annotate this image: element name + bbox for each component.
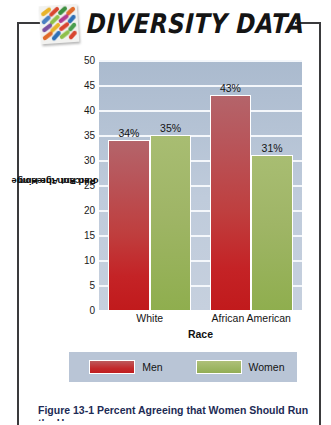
y-axis-tick-label: 50 [73, 55, 95, 66]
frame-border-right [319, 22, 321, 425]
figure-header: DIVERSITY DATA [40, 2, 301, 46]
chart-legend: MenWomen [69, 352, 297, 382]
figure-caption: Figure 13-1 Percent Agreeing that Women … [38, 404, 309, 421]
x-axis-title: Race [99, 328, 302, 340]
y-axis-tick-label: 30 [73, 155, 95, 166]
y-axis-tick-label: 0 [73, 305, 95, 316]
y-axis-tick-label: 25 [73, 180, 95, 191]
x-axis-ticks: WhiteAfrican American [99, 312, 302, 328]
bar-women-white [150, 135, 192, 310]
frame-border-left [17, 22, 19, 425]
y-axis-tick-label: 10 [73, 255, 95, 266]
y-axis-ticks: 05101520253035404550 [73, 52, 95, 310]
y-axis-tick-label: 45 [73, 80, 95, 91]
bar-value-label: 43% [220, 82, 241, 94]
bar-men-white [108, 140, 150, 310]
legend-label: Women [249, 361, 285, 373]
legend-item-women: Women [183, 360, 297, 374]
bar-chart: Percent Agreeing Women Should Run the Ho… [27, 52, 308, 390]
legend-item-men: Men [69, 360, 183, 374]
legend-label: Men [142, 361, 162, 373]
mosaic-tiles-icon [39, 4, 80, 45]
y-axis-tick-label: 20 [73, 205, 95, 216]
x-axis-tick-label: White [136, 312, 163, 324]
bars-layer: 34%35%43%31% [99, 60, 302, 310]
y-axis-tick-label: 5 [73, 280, 95, 291]
legend-swatch [196, 360, 242, 374]
bar-men-african-american [210, 95, 252, 310]
y-axis-tick-label: 15 [73, 230, 95, 241]
y-axis-tick-label: 35 [73, 130, 95, 141]
bar-women-african-american [251, 155, 293, 310]
y-axis-tick-label: 40 [73, 105, 95, 116]
legend-swatch [89, 360, 135, 374]
figure-title: DIVERSITY DATA [86, 9, 305, 40]
plot-area: 34%35%43%31% [99, 60, 302, 310]
x-axis-tick-label: African American [212, 312, 291, 324]
bar-value-label: 34% [118, 127, 139, 139]
bar-value-label: 31% [262, 142, 283, 154]
bar-value-label: 35% [160, 122, 181, 134]
